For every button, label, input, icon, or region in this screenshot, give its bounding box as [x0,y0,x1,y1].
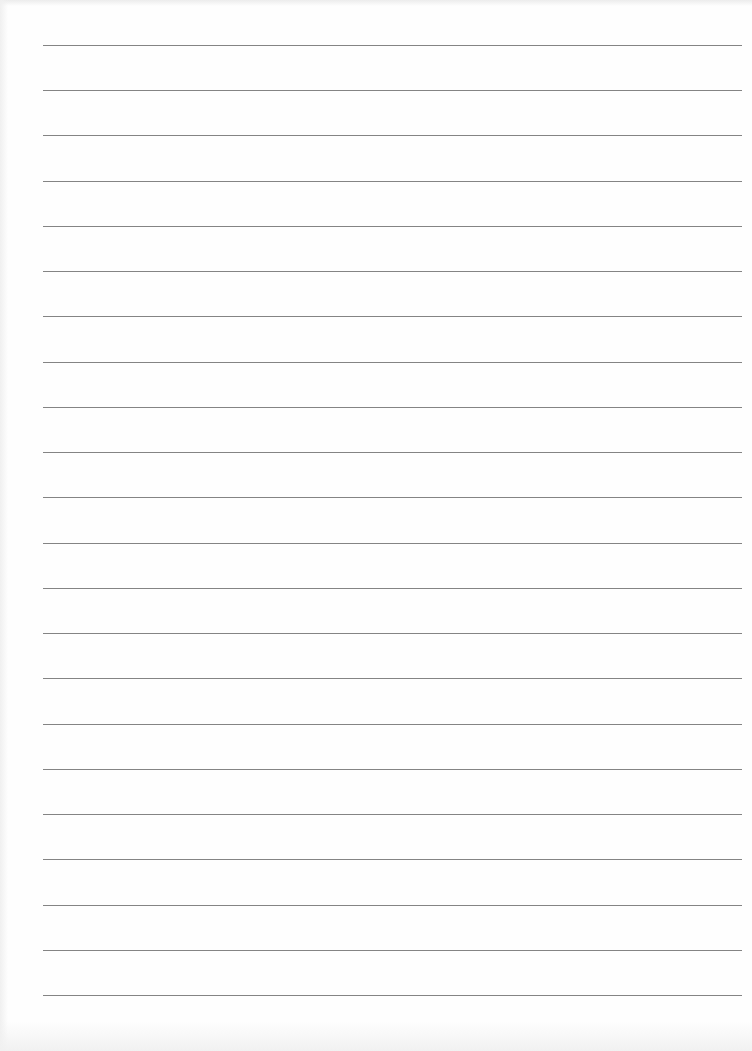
ruled-line [43,814,742,816]
ruled-line [43,135,742,137]
ruled-line [43,45,742,47]
page-edge-top [0,0,752,6]
ruled-line [43,181,742,183]
ruled-line [43,769,742,771]
page-edge-left [0,0,8,1051]
ruled-line [43,995,742,997]
ruled-line [43,407,742,409]
lined-paper-page [0,0,752,1051]
ruled-line [43,678,742,680]
ruled-line [43,90,742,92]
ruled-line [43,588,742,590]
ruled-line [43,316,742,318]
page-edge-bottom [0,1021,752,1051]
ruled-line [43,724,742,726]
ruled-line [43,633,742,635]
ruled-line [43,271,742,273]
ruled-line [43,905,742,907]
ruled-line [43,950,742,952]
ruled-line [43,859,742,861]
ruled-line [43,543,742,545]
ruled-line [43,452,742,454]
ruled-line [43,362,742,364]
ruled-line [43,497,742,499]
ruled-line [43,226,742,228]
